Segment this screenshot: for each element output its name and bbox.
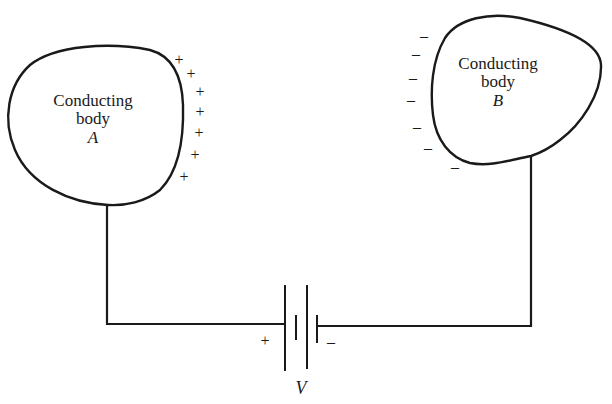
body-a-line1: Conducting [33,92,153,110]
plus-charge: + [195,104,204,120]
plus-charge: + [174,52,183,68]
plus-charge: + [179,169,188,185]
body-b-name: B [438,92,558,110]
plus-charge: + [194,125,203,141]
minus-charge: – [424,140,432,156]
minus-charge: – [412,46,420,62]
minus-charge: – [451,159,459,175]
minus-charge: – [409,70,417,86]
plus-charge: + [195,84,204,100]
body-a-name: A [33,129,153,147]
battery-symbol [285,285,317,371]
plus-charge: + [190,147,199,163]
wire-left [107,205,285,324]
battery-negative-sign: – [327,334,335,350]
battery-positive-sign: + [260,333,269,349]
body-b-line1: Conducting [438,55,558,73]
body-a-line2: body [33,110,153,128]
body-b-line2: body [438,73,558,91]
minus-charge: – [407,92,415,108]
minus-charge: – [413,119,421,135]
battery-voltage-label: V [296,379,307,397]
body-a-label: Conducting body A [33,92,153,147]
plus-charge: + [186,66,195,82]
body-b-label: Conducting body B [438,55,558,110]
wire-right [316,156,531,326]
minus-charge: – [420,28,428,44]
